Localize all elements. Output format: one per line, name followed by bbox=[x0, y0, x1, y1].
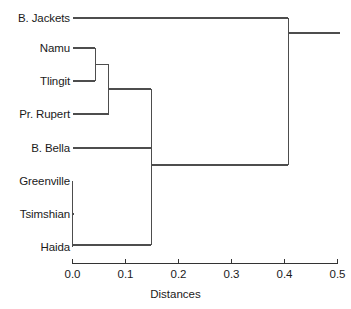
x-tick-label-2: 0.2 bbox=[171, 268, 187, 280]
leaf-label-tsimshian: Tsimshian bbox=[20, 208, 70, 220]
leaf-label-greenville: Greenville bbox=[19, 175, 70, 187]
leaf-label-namu: Namu bbox=[40, 42, 70, 54]
leaf-label-b-bella: B. Bella bbox=[31, 142, 70, 154]
x-tick-label-3: 0.3 bbox=[224, 268, 240, 280]
x-tick-label-0: 0.0 bbox=[65, 268, 81, 280]
dendrogram-branches bbox=[73, 18, 341, 247]
x-axis-title: Distances bbox=[0, 288, 351, 300]
x-tick-label-4: 0.4 bbox=[277, 268, 293, 280]
x-tick-label-1: 0.1 bbox=[118, 268, 134, 280]
leaf-label-b-jackets: B. Jackets bbox=[18, 12, 70, 24]
dendrogram-figure: B. Jackets Namu Tlingit Pr. Rupert B. Be… bbox=[0, 0, 351, 309]
leaf-label-tlingit: Tlingit bbox=[40, 75, 70, 87]
x-tick-label-5: 0.5 bbox=[330, 268, 346, 280]
leaf-label-pr-rupert: Pr. Rupert bbox=[19, 108, 70, 120]
leaf-label-haida: Haida bbox=[40, 241, 70, 253]
x-axis bbox=[73, 259, 338, 264]
